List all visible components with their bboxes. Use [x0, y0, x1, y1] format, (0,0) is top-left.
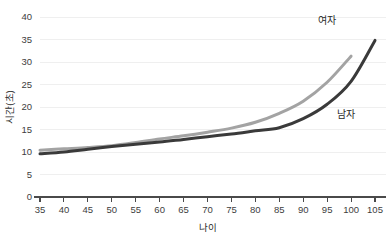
- y-tick-label: 35: [21, 34, 32, 45]
- y-axis-tick-labels: 0510152025303540: [21, 11, 32, 202]
- data-series-group: [40, 40, 375, 153]
- series-annotation-labels: 여자남자: [318, 15, 355, 121]
- y-tick-label: 5: [27, 169, 32, 180]
- series-label-남자: 남자: [337, 109, 355, 120]
- x-tick-label: 40: [59, 204, 70, 215]
- y-tick-label: 25: [21, 79, 32, 90]
- x-tick-label: 95: [322, 204, 333, 215]
- x-axis-tick-labels: 35404550556065707580859095100105: [35, 204, 383, 215]
- x-tick-label: 100: [343, 204, 359, 215]
- x-tick-label: 45: [83, 204, 94, 215]
- x-tick-label: 105: [367, 204, 383, 215]
- y-tick-label: 0: [27, 191, 32, 202]
- chart-canvas: 0510152025303540 35404550556065707580859…: [0, 0, 391, 240]
- line-chart: 0510152025303540 35404550556065707580859…: [0, 0, 391, 240]
- x-axis-tick-marks: [40, 197, 375, 202]
- x-tick-label: 35: [35, 204, 46, 215]
- x-tick-label: 65: [178, 204, 189, 215]
- x-tick-label: 90: [298, 204, 309, 215]
- series-line-남자: [40, 40, 375, 153]
- gridlines-group: [40, 17, 386, 175]
- x-tick-label: 70: [202, 204, 213, 215]
- y-tick-label: 30: [21, 56, 32, 67]
- x-axis-title: 나이: [199, 222, 217, 233]
- x-tick-label: 85: [274, 204, 285, 215]
- y-tick-label: 15: [21, 124, 32, 135]
- x-tick-label: 60: [154, 204, 165, 215]
- y-tick-label: 20: [21, 101, 32, 112]
- x-tick-label: 55: [130, 204, 141, 215]
- y-tick-label: 10: [21, 146, 32, 157]
- series-line-여자: [40, 56, 351, 150]
- x-tick-label: 50: [106, 204, 117, 215]
- x-tick-label: 80: [250, 204, 261, 215]
- series-label-여자: 여자: [318, 15, 336, 26]
- y-tick-label: 40: [21, 11, 32, 22]
- x-tick-label: 75: [226, 204, 237, 215]
- y-axis-title: 시간(초): [4, 90, 15, 123]
